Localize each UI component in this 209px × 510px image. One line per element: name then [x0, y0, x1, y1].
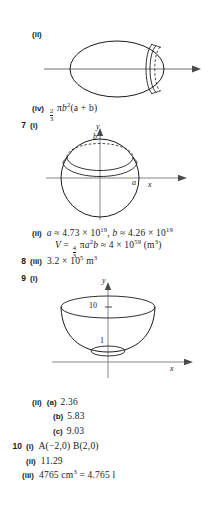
radius-label-a: a [132, 178, 136, 187]
answer-value: a ≈ 4.73 × 1019, b ≈ 4.26 × 1019 [47, 228, 173, 238]
bowl-left-wall [61, 307, 108, 352]
answers-page: (ii) (iv) 2 3 πb2(a + b) [0, 0, 209, 510]
answer-value: 2 3 πb2(a + b) [49, 103, 97, 123]
part-label: (ii) [32, 229, 42, 238]
fraction-numerator: 4 [73, 245, 76, 252]
slab-top-cap [151, 44, 161, 47]
unit-open: (m [144, 240, 155, 250]
approx-value: ≈ 4 × 10 [101, 240, 135, 250]
fraction-denominator: 3 [50, 115, 53, 123]
y-tick-label-10: 10 [89, 301, 97, 310]
subpart-label-c: (c) [53, 427, 63, 436]
sphere-cap-diagram: y b a x [38, 124, 203, 226]
fraction-numerator: 2 [50, 108, 53, 115]
bowl-right-wall [108, 307, 155, 352]
entry-10-i: 10 (i) A(−2,0) B(2,0) [8, 441, 99, 451]
part-label: (iv) [32, 104, 44, 113]
ellipsoid-with-slice-diagram [44, 36, 204, 100]
subpart-label-b: (b) [53, 412, 63, 421]
part-label: (ii) [26, 457, 36, 466]
x-axis-label: x [148, 180, 152, 189]
entry-9-ii-a: (ii) (a) 2.36 [32, 397, 78, 407]
answer-value: 11.29 [41, 456, 63, 466]
entry-9-ii-c: (c) 9.03 [53, 426, 84, 436]
unit-metre: m [86, 256, 94, 266]
unit-close: ) [158, 240, 161, 250]
variable-V: V [55, 240, 61, 250]
answer-value: 2.36 [61, 397, 78, 407]
variable-b: b [112, 228, 117, 238]
exponent-5: 5 [80, 254, 83, 261]
answer-value: 9.03 [67, 426, 84, 436]
x-axis-arrowhead [178, 175, 187, 181]
y-axis-label: y [102, 276, 106, 285]
axis-arrowhead [192, 66, 201, 73]
answer-value: A(−2,0) B(2,0) [39, 441, 99, 451]
question-number: 8 [12, 256, 26, 266]
y-tick-label-1: 1 [100, 336, 104, 345]
entry-8-iii: 8 (iii) 3.2 × 105 m3 [12, 256, 97, 266]
unit-exponent-3: 3 [73, 468, 76, 475]
variable-b: b [93, 240, 98, 250]
x-axis-label: x [170, 364, 174, 373]
fraction-two-thirds: 2 3 [50, 108, 53, 123]
question-number: 9 [12, 273, 26, 283]
answer-value: 5.83 [67, 411, 84, 421]
entry-10-iii: (iii) 4765 cm3 = 4.765 l [22, 470, 115, 480]
volume-cm3: 4765 cm [39, 470, 73, 480]
part-label: (i) [30, 121, 38, 130]
exponent-19-b: 19 [166, 226, 173, 233]
entry-7-ii: (ii) a ≈ 4.73 × 1019, b ≈ 4.26 × 1019 [32, 228, 173, 238]
part-label: (iii) [22, 471, 34, 480]
part-label: (ii) [32, 398, 42, 407]
part-label: (iii) [30, 257, 42, 266]
x-axis-arrowhead [184, 359, 193, 365]
approx-value-a: ≈ 4.73 × 10 [54, 228, 100, 238]
equals-sign: = [64, 240, 72, 250]
subpart-label-a: (a) [47, 398, 57, 407]
entry-9-ii-b: (b) 5.83 [53, 411, 85, 421]
answer-value: 4765 cm3 = 4.765 l [39, 470, 115, 480]
question-number: 7 [12, 120, 26, 130]
question-number: 10 [8, 441, 22, 451]
approx-value-b: ≈ 4.26 × 10 [120, 228, 166, 238]
y-axis-label: y [96, 122, 100, 131]
variable-a: a [47, 228, 52, 238]
expression-tail: (a + b) [70, 103, 97, 113]
height-label-b: b [93, 132, 97, 141]
entry-10-ii: (ii) 11.29 [26, 456, 63, 466]
answer-value: 3.2 × 105 m3 [47, 256, 97, 266]
slab-bottom-cap [151, 91, 161, 94]
exponent-59: 59 [134, 238, 141, 245]
part-label: (ii) [32, 30, 42, 39]
paraboloid-bowl-diagram: y 10 1 x [36, 278, 204, 386]
value-mantissa: 3.2 × 10 [47, 256, 80, 266]
part-label: (i) [26, 442, 34, 451]
unit-exponent-3: 3 [94, 254, 97, 261]
volume-litres: = 4.765 l [79, 470, 115, 480]
